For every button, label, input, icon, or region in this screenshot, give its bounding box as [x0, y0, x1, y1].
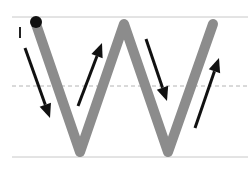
- letter-w-stroke: [36, 24, 213, 152]
- arrowhead-icon: [209, 58, 220, 73]
- arrowhead-icon: [157, 86, 168, 101]
- letter-w-stroke-diagram: [0, 0, 248, 178]
- arrowhead-icon: [40, 103, 51, 118]
- arrowhead-icon: [91, 43, 102, 58]
- start-dot-icon: [30, 16, 42, 28]
